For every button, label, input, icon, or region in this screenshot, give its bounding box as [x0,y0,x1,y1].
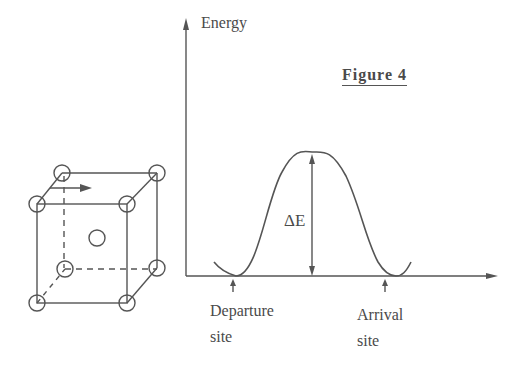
y-axis-label: Energy [201,14,247,32]
barrier-label: ΔE [284,211,305,231]
arrival-site-arrow [382,279,388,292]
figure-title: Figure 4 [342,66,407,86]
departure-label-line1: Departure [210,298,274,324]
delta-e-arrow [309,154,315,276]
energy-axes [183,18,498,279]
arrival-label-line1: Arrival [357,302,403,328]
departure-label-line2: site [210,324,274,350]
departure-site-label: Departure site [210,298,274,350]
arrival-site-label: Arrival site [357,302,403,354]
departure-site-arrow [230,279,236,292]
cube-unit-cell [29,165,165,311]
center-atom [89,230,105,246]
arrival-label-line2: site [357,328,403,354]
